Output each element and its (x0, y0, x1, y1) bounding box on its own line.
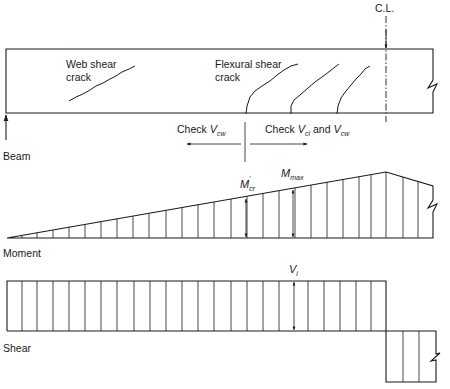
centerline-label: C.L. (375, 2, 394, 14)
beam-label: Beam (3, 150, 31, 162)
shear-diagram: Vi Shear (3, 263, 440, 382)
check-vcw-label: Check Vcw (177, 123, 227, 137)
moment-diagram: Mcr' Mmax Moment (3, 167, 437, 259)
shear-design-diagram: C.L. Web shear crack Flexural shear crac… (0, 0, 450, 389)
beam-elevation: C.L. Web shear crack Flexural shear crac… (3, 2, 437, 162)
flexural-shear-label-line1: Flexural shear (215, 58, 282, 70)
moment-outline (7, 172, 437, 238)
check-vci-vcw-label: Check Vci and Vcw (265, 123, 350, 137)
flexural-shear-crack-3 (337, 66, 370, 114)
moment-label: Moment (3, 247, 41, 259)
mmax-label: Mmax (281, 167, 304, 181)
flexural-shear-crack-2 (291, 64, 339, 114)
moment-ordinates (22, 172, 418, 238)
flexural-shear-crack-1 (246, 64, 298, 114)
web-shear-label-line2: crack (66, 71, 92, 83)
mcr-label: Mcr' (240, 175, 256, 192)
shear-outline (7, 281, 440, 382)
shear-label: Shear (3, 342, 32, 354)
vi-label: Vi (289, 263, 298, 277)
flexural-shear-label-line2: crack (215, 71, 241, 83)
web-shear-label-line1: Web shear (66, 58, 117, 70)
